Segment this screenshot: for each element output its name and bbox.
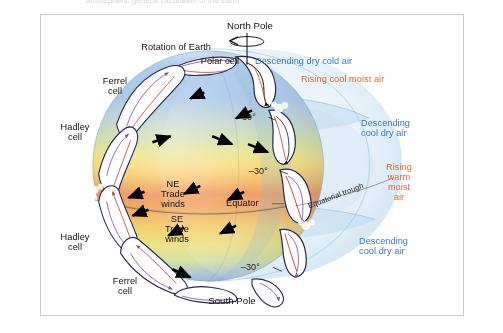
label-descending-cool-dry-air-upper-line2: cool dry air <box>361 129 410 139</box>
cropped-caption-strip: atmospheric general circulation of the e… <box>0 0 503 9</box>
label-descending-dry-cold-air: Descending dry cold air <box>255 57 352 67</box>
label-ferrel-cell-south-line2: cell <box>99 287 151 297</box>
label-descending-cool-dry-air-lower-line2: cool dry air <box>359 247 408 257</box>
label-rising-cool-moist-air: Rising cool moist air <box>301 75 384 85</box>
label-rotation-of-earth: Rotation of Earth <box>81 43 211 53</box>
label-rising-warm-moist-air-line4: air <box>377 193 421 203</box>
figure-frame: North Pole Rotation of Earth Polar cell … <box>40 14 464 316</box>
label-hadley-cell-south-line2: cell <box>47 243 103 253</box>
label-ne-trade-winds-line3: winds <box>149 200 197 210</box>
label-se-trade-winds-line3: winds <box>153 235 201 245</box>
label-latitude-60-north: –60° <box>237 113 256 123</box>
label-latitude-30-north: –30° <box>249 167 268 177</box>
label-polar-cell: Polar cell <box>111 57 239 67</box>
label-ferrel-cell-north-line2: cell <box>89 87 141 97</box>
label-equator: Equator <box>226 199 259 209</box>
label-hadley-cell-north-line2: cell <box>47 133 103 143</box>
label-north-pole: North Pole <box>185 21 315 31</box>
cropped-caption-text: atmospheric general circulation of the e… <box>86 0 239 5</box>
label-south-pole: South Pole <box>167 296 297 306</box>
label-latitude-30-south: –30° <box>241 263 260 273</box>
